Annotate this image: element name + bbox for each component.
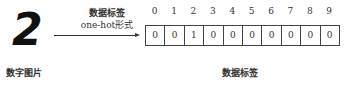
vector-cell: 0 xyxy=(146,26,165,45)
vector-cell: 0 xyxy=(165,26,184,45)
index-4: 4 xyxy=(223,6,242,16)
right-arrow-icon xyxy=(54,35,136,36)
index-1: 1 xyxy=(164,6,183,16)
arrow-subtitle: one-hot形式 xyxy=(62,18,152,31)
vector-cell: 1 xyxy=(185,26,204,45)
index-0: 0 xyxy=(145,6,164,16)
index-5: 5 xyxy=(242,6,261,16)
digit-image-caption: 数字图片 xyxy=(6,66,42,79)
one-hot-vector: 0 0 1 0 0 0 0 0 0 0 xyxy=(145,25,340,46)
vector-indices: 0 1 2 3 4 5 6 7 8 9 xyxy=(145,6,339,16)
vector-cell: 0 xyxy=(204,26,223,45)
index-9: 9 xyxy=(320,6,339,16)
vector-cell: 0 xyxy=(321,26,339,45)
index-2: 2 xyxy=(184,6,203,16)
vector-cell: 0 xyxy=(224,26,243,45)
index-8: 8 xyxy=(300,6,319,16)
vector-cell: 0 xyxy=(282,26,301,45)
index-3: 3 xyxy=(203,6,222,16)
handwritten-digit-image: 2 xyxy=(12,8,43,52)
vector-caption: 数据标签 xyxy=(190,66,290,79)
index-7: 7 xyxy=(281,6,300,16)
vector-cell: 0 xyxy=(301,26,320,45)
vector-cell: 0 xyxy=(262,26,281,45)
index-6: 6 xyxy=(261,6,280,16)
vector-cell: 0 xyxy=(243,26,262,45)
